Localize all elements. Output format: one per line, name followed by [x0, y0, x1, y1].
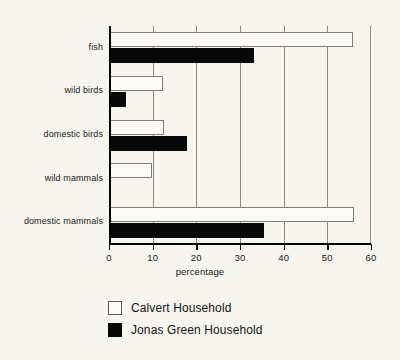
- x-tick-label-30: 30: [235, 252, 246, 263]
- light-square-icon: [108, 301, 122, 315]
- x-tick-20: [196, 244, 197, 250]
- category-label-wrap: domestic birds: [0, 129, 103, 141]
- category-label-domestic-birds: domestic birds: [44, 129, 103, 139]
- x-tick-label-10: 10: [147, 252, 158, 263]
- category-label-wild-birds: wild birds: [64, 85, 103, 95]
- x-tick-label-50: 50: [322, 252, 333, 263]
- category-label-wild-mammals: wild mammals: [45, 173, 103, 183]
- x-tick-0: [109, 244, 110, 250]
- category-label-domestic-mammals: domestic mammals: [24, 216, 103, 226]
- legend-item-calvert: Calvert Household: [108, 297, 263, 319]
- chart-legend: Calvert Household Jonas Green Household: [108, 297, 263, 341]
- dark-square-icon: [108, 323, 122, 337]
- x-tick-10: [153, 244, 154, 250]
- category-labels: fishwild birdsdomestic birdswild mammals…: [0, 26, 400, 244]
- category-label-wrap: wild mammals: [0, 173, 103, 185]
- x-tick-label-40: 40: [278, 252, 289, 263]
- category-label-wrap: domestic mammals: [0, 216, 103, 228]
- x-tick-50: [327, 244, 328, 250]
- legend-label-jonas-green: Jonas Green Household: [131, 323, 263, 337]
- x-axis-label: percentage: [0, 266, 400, 277]
- x-tick-30: [240, 244, 241, 250]
- bar-chart: fishwild birdsdomestic birdswild mammals…: [0, 0, 400, 360]
- x-tick-40: [284, 244, 285, 250]
- x-tick-60: [371, 244, 372, 250]
- category-label-wrap: wild birds: [0, 85, 103, 97]
- y-axis-line: [109, 26, 111, 244]
- legend-item-jonas-green: Jonas Green Household: [108, 319, 263, 341]
- category-label-fish: fish: [89, 42, 103, 52]
- x-tick-label-20: 20: [191, 252, 202, 263]
- legend-label-calvert: Calvert Household: [131, 301, 231, 315]
- x-tick-label-0: 0: [106, 252, 111, 263]
- category-label-wrap: fish: [0, 42, 103, 54]
- x-tick-label-60: 60: [366, 252, 377, 263]
